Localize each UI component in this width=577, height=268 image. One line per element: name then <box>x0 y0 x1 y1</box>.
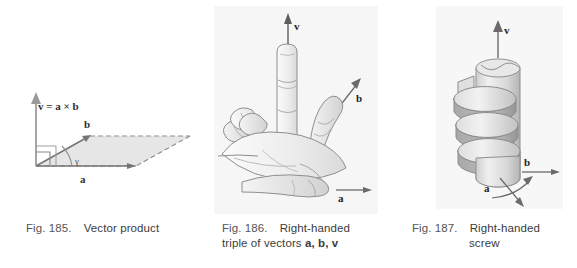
figure-187-caption: Fig. 187.Right-handed screw <box>412 221 540 251</box>
figure-186-number: Fig. 186. <box>222 222 268 234</box>
figure-185-title: Vector product <box>84 222 160 234</box>
vector-a-label: a <box>338 192 344 204</box>
vector-a-label: a <box>484 182 490 194</box>
vector-product-equation-label: v = a × b <box>38 100 79 112</box>
figure-187-number: Fig. 187. <box>412 222 458 234</box>
vector-b-arrowhead <box>351 78 361 89</box>
right-hand-rule-drawing: v b a <box>214 6 378 214</box>
vector-b-arrowhead <box>551 169 560 175</box>
vector-b-label: b <box>356 92 362 104</box>
thread-turn-1-face <box>454 87 516 112</box>
figure-187-title: Right-handed <box>470 222 540 234</box>
figure-186-illustration: v b a <box>214 6 378 214</box>
vector-a-label: a <box>80 173 86 185</box>
figure-186-caption: Fig. 186.Right-handed triple of vectors … <box>222 221 350 251</box>
figure-187-illustration: v b a <box>436 6 563 209</box>
vector-b-label: b <box>524 156 530 168</box>
hand-palm <box>222 132 346 180</box>
thread-turn-2-face <box>456 113 518 138</box>
vector-a-arrowhead <box>363 187 372 193</box>
figure-187-subtitle: screw <box>469 236 540 251</box>
vector-v-arrowhead <box>284 13 292 24</box>
figure-185-number: Fig. 185. <box>26 222 72 234</box>
vector-b-label: b <box>84 118 90 130</box>
vector-v-label: v <box>504 24 510 36</box>
rotation-arc-arrowhead <box>523 176 533 185</box>
right-handed-screw-drawing: v b a <box>436 6 563 209</box>
index-finger <box>277 44 297 139</box>
figure-185-caption: Fig. 185.Vector product <box>26 221 159 236</box>
figure-186-title: Right-handed <box>280 222 350 234</box>
figure-186-subtitle-prefix: triple of vectors <box>222 237 305 249</box>
vector-v-arrowhead <box>493 20 503 32</box>
screw-lower-shaft <box>476 156 520 187</box>
parallelogram-face <box>36 136 190 166</box>
vector-v-label: v <box>294 20 300 32</box>
figure-186-subtitle-vectors: a, b, v <box>305 237 338 249</box>
angle-gamma-label: γ <box>74 156 79 166</box>
